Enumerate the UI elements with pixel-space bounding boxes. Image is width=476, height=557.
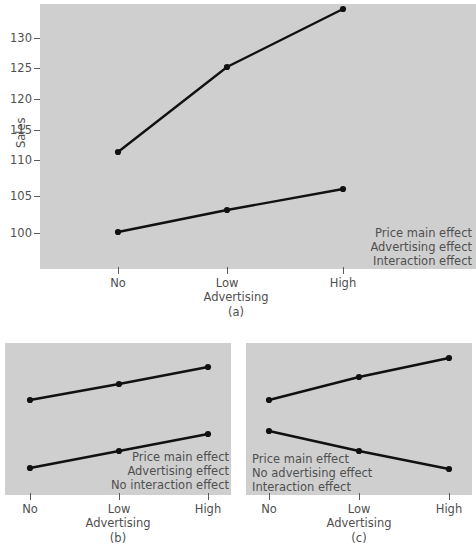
y-tick-label-110: 110 <box>6 153 32 167</box>
series-lower-line <box>118 189 343 232</box>
x-tick-label-high: High <box>424 502 474 516</box>
x-tick-label-no: No <box>244 502 294 516</box>
legend-item-advertising-effect: Advertising effect <box>370 240 472 254</box>
x-tick-mark <box>359 493 360 500</box>
panel-caption-a: (a) <box>178 305 294 319</box>
chart-panel-b: Price main effect Advertising effect No … <box>0 330 236 557</box>
y-tick-label-130: 130 <box>6 31 32 45</box>
x-tick-label-low: Low <box>334 502 384 516</box>
data-point <box>266 397 272 403</box>
x-tick-label-low: Low <box>94 502 144 516</box>
legend-a: Price main effect Advertising effect Int… <box>370 226 472 268</box>
legend-item-price-main-effect: Price main effect <box>370 226 472 240</box>
legend-item-interaction-effect: Interaction effect <box>252 480 372 494</box>
x-axis-title-c: Advertising <box>301 516 417 530</box>
x-tick-mark <box>30 493 31 500</box>
y-tick-label-115: 115 <box>6 123 32 137</box>
x-tick-label-high: High <box>183 502 233 516</box>
chart-panel-a: Sales 130 125 120 115 110 105 100 Price … <box>0 0 476 320</box>
legend-item-interaction-effect: Interaction effect <box>370 254 472 268</box>
x-tick-mark <box>343 267 344 274</box>
x-tick-label-high: High <box>313 276 373 290</box>
legend-item-no-advertising-effect: No advertising effect <box>252 466 372 480</box>
legend-item-no-interaction-effect: No interaction effect <box>111 478 229 492</box>
legend-b: Price main effect Advertising effect No … <box>111 450 229 492</box>
series-upper-line <box>118 9 343 152</box>
y-tick-label-120: 120 <box>6 92 32 106</box>
data-point <box>27 465 33 471</box>
x-tick-mark <box>208 493 209 500</box>
data-point <box>340 186 346 192</box>
x-tick-mark <box>118 267 119 274</box>
x-axis-title-a: Advertising <box>178 290 294 304</box>
data-point <box>446 355 452 361</box>
data-point <box>266 428 272 434</box>
data-point <box>340 6 346 12</box>
x-axis-title-b: Advertising <box>60 516 176 530</box>
y-tick-label-125: 125 <box>6 61 32 75</box>
legend-item-price-main-effect: Price main effect <box>252 452 372 466</box>
data-point <box>205 431 211 437</box>
chart-panel-c: Price main effect No advertising effect … <box>236 330 476 557</box>
x-tick-mark <box>449 493 450 500</box>
data-point <box>115 149 121 155</box>
data-point <box>205 364 211 370</box>
x-tick-mark <box>269 493 270 500</box>
data-point <box>224 64 230 70</box>
x-tick-label-no: No <box>5 502 55 516</box>
y-tick-label-105: 105 <box>6 189 32 203</box>
data-point <box>224 207 230 213</box>
data-point <box>116 381 122 387</box>
panel-caption-b: (b) <box>60 531 176 545</box>
data-point <box>27 397 33 403</box>
legend-c: Price main effect No advertising effect … <box>252 452 372 494</box>
data-point <box>446 466 452 472</box>
x-tick-mark <box>119 493 120 500</box>
panel-caption-c: (c) <box>301 531 417 545</box>
x-tick-mark <box>227 267 228 274</box>
data-point <box>356 374 362 380</box>
x-tick-label-low: Low <box>197 276 257 290</box>
legend-item-price-main-effect: Price main effect <box>111 450 229 464</box>
data-point <box>115 229 121 235</box>
y-tick-label-100: 100 <box>6 226 32 240</box>
legend-item-advertising-effect: Advertising effect <box>111 464 229 478</box>
x-tick-label-no: No <box>88 276 148 290</box>
